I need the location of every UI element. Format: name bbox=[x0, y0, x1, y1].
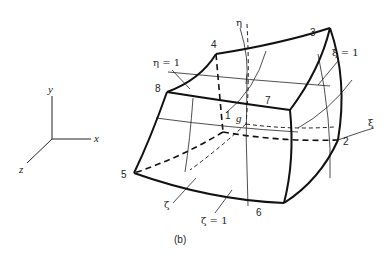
figure-caption: (b) bbox=[174, 234, 186, 245]
node-label-2: 2 bbox=[343, 136, 349, 147]
node-label-5: 5 bbox=[121, 169, 127, 180]
node-label-6: 6 bbox=[256, 207, 262, 218]
node-label-7: 7 bbox=[265, 95, 271, 106]
x-axis-label: x bbox=[93, 132, 99, 144]
natural-axis-labels: η ξ ζ bbox=[164, 17, 374, 210]
global-axes: y x z bbox=[18, 83, 99, 175]
isoparametric-element-diagram: y x z bbox=[0, 0, 392, 256]
xi-axis-label: ξ bbox=[368, 117, 374, 128]
node-label-1: 1 bbox=[225, 110, 231, 121]
node-label-3: 3 bbox=[310, 27, 316, 38]
zeta-axis-label: ζ bbox=[164, 199, 170, 210]
xi-face-label: ξ = 1 bbox=[332, 47, 359, 58]
center-label-g: g bbox=[236, 112, 242, 124]
zeta-face-label: ζ = 1 bbox=[201, 215, 228, 226]
eta-axis-label: η bbox=[236, 17, 242, 28]
z-axis-label: z bbox=[18, 163, 24, 175]
eta-face-label: η = 1 bbox=[153, 57, 180, 68]
node-label-8: 8 bbox=[155, 83, 161, 94]
node-label-4: 4 bbox=[211, 39, 217, 50]
y-axis-label: y bbox=[47, 83, 53, 95]
